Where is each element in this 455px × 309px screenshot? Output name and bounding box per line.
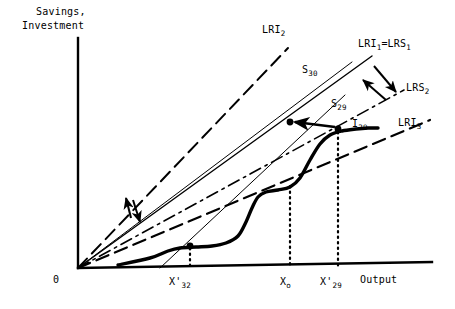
economics-diagram: Savings, Investment LRI2 LRI1=LRS1 S30 L… <box>0 0 455 309</box>
series-lri-2 <box>78 48 288 268</box>
curve-label-lri2-text: LRI <box>262 24 281 35</box>
curve-label-lri2-sub: 2 <box>281 29 286 38</box>
marked-point-equilibrium-lower <box>187 243 194 250</box>
y-axis-label-line2: Investment <box>22 20 84 32</box>
curve-label-s30: S30 <box>302 64 318 76</box>
y-axis-label-line1: Savings, <box>36 6 86 18</box>
curve-label-s30-sub: 30 <box>308 69 317 78</box>
curve-label-lrs1-sub: 1 <box>406 43 411 52</box>
curve-label-lri3: LRI3 <box>398 117 421 129</box>
curve-label-s29: S29 <box>331 98 347 110</box>
annotation-arrow-shift-arrow-up-left-upper <box>363 80 386 100</box>
curve-label-lrs2-sub: 2 <box>425 87 430 96</box>
marked-point-equilibrium-upper <box>287 119 294 126</box>
x-tick-label-x0: Xo <box>280 276 291 288</box>
curve-label-s29-sub: 29 <box>337 103 346 112</box>
marked-point-equilibrium-i29-upper <box>335 126 342 133</box>
curve-label-lrs1-text: =LRS <box>381 38 406 49</box>
curve-label-i29: I29 <box>352 118 368 130</box>
origin-label: 0 <box>53 274 59 286</box>
series-lri-3 <box>78 120 430 268</box>
curve-label-lri2: LRI2 <box>262 24 285 36</box>
series-s-30 <box>78 62 352 268</box>
curve-label-lri3-sub: 3 <box>417 122 422 131</box>
x-tick-label-x29: X'29 <box>320 276 342 288</box>
series-lrs-2 <box>78 90 404 268</box>
x-axis-label: Output <box>360 274 397 286</box>
series-s-29 <box>160 95 345 268</box>
x-tick-label-x32: X'32 <box>169 276 191 288</box>
curve-label-lrs2-text: LRS <box>406 82 425 93</box>
curve-label-i29-sub: 29 <box>358 123 367 132</box>
curve-label-lri1-lrs1: LRI1=LRS1 <box>358 38 411 50</box>
curve-label-lri3-text: LRI <box>398 117 417 128</box>
curve-label-lrs2: LRS2 <box>406 82 429 94</box>
curve-label-lri1-text: LRI <box>358 38 377 49</box>
annotation-arrow-shift-arrow-down-right-upper <box>374 66 396 92</box>
